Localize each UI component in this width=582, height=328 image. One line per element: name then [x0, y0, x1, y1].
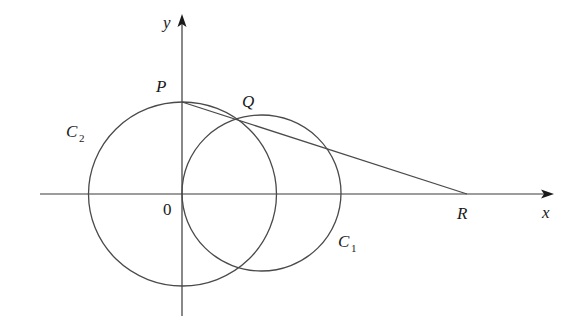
point-p-label: P [155, 77, 166, 96]
x-axis [40, 190, 554, 199]
point-r-label: R [456, 204, 468, 223]
svg-text:2: 2 [79, 132, 85, 144]
circle-c2-label: C 2 [66, 122, 85, 144]
circle-c1-label: C 1 [338, 232, 357, 254]
line-pr [182, 102, 467, 194]
point-q-label: Q [242, 92, 254, 111]
svg-text:C: C [338, 232, 350, 251]
geometry-diagram: y x 0 P Q R C 2 C 1 [0, 0, 582, 328]
svg-text:1: 1 [351, 242, 357, 254]
x-axis-label: x [541, 203, 550, 222]
origin-label: 0 [163, 200, 172, 219]
y-axis [178, 14, 187, 316]
y-axis-label: y [161, 13, 171, 32]
svg-text:C: C [66, 122, 78, 141]
circle-c1 [182, 115, 341, 271]
